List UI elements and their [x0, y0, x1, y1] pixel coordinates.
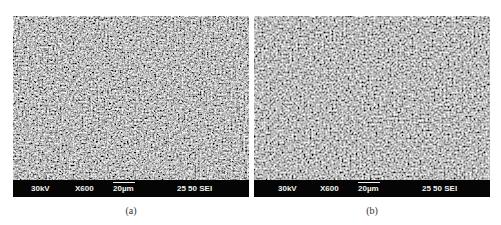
scale-label: 20µm: [113, 184, 134, 193]
detector-label: 25 50 SEI: [177, 184, 212, 193]
grain-texture-a: [13, 16, 249, 180]
scale-bar: [113, 182, 135, 183]
sem-panel-a: 30kV X600 20µm 25 50 SEI: [13, 16, 249, 197]
sem-micrograph-a: [13, 16, 249, 180]
sem-panel-b: 30kV X600 20µm 25 50 SEI: [254, 16, 490, 197]
detector-label: 25 50 SEI: [422, 184, 457, 193]
sem-infobar-b: 30kV X600 20µm 25 50 SEI: [254, 180, 490, 197]
caption-a: (a): [116, 205, 146, 216]
voltage-label: 30kV: [31, 184, 50, 193]
scale-bar: [358, 182, 380, 183]
voltage-label: 30kV: [278, 184, 297, 193]
grain-texture-b: [254, 16, 490, 180]
sem-micrograph-b: [254, 16, 490, 180]
caption-b: (b): [357, 205, 387, 216]
magnification-label: X600: [320, 184, 339, 193]
magnification-label: X600: [75, 184, 94, 193]
scale-label: 20µm: [358, 184, 379, 193]
sem-infobar-a: 30kV X600 20µm 25 50 SEI: [13, 180, 249, 197]
